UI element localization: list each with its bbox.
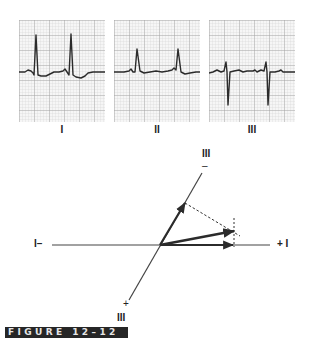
lead-iii-top-label: III bbox=[202, 148, 210, 159]
lead-iii-bottom-label: III bbox=[117, 312, 125, 323]
vector-diagram bbox=[0, 0, 310, 340]
lead-i-positive-label: + I bbox=[277, 238, 288, 249]
mean-vector-arrow bbox=[160, 231, 234, 245]
lead-i-negative-label: I– bbox=[34, 238, 42, 249]
lead-iii-positive-sign: + bbox=[123, 298, 129, 309]
figure-label: FIGURE 12–12 bbox=[5, 327, 128, 338]
lead-iii-vector-arrow bbox=[160, 203, 185, 245]
lead-iii-negative-sign: – bbox=[202, 160, 208, 171]
